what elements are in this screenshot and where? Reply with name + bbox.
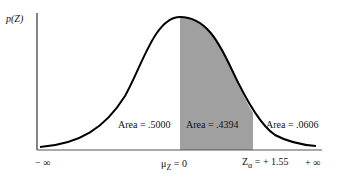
y-axis-label: p(Z): [6, 14, 23, 24]
neg-infinity-label: − ∞: [35, 158, 50, 168]
mean-label: μZ = 0: [161, 159, 187, 169]
z-value: = + 1.55: [252, 156, 288, 167]
area-mid-label: Area = .4394: [186, 120, 239, 130]
pos-infinity-label: + ∞: [305, 158, 320, 168]
z-alpha-label: Zα = + 1.55: [242, 157, 289, 167]
mu-value: = 0: [171, 158, 187, 169]
shaded-area: [180, 17, 253, 150]
normal-curve-plot: [0, 0, 337, 181]
z-subscript: α: [248, 161, 252, 170]
mu-subscript: Z: [166, 163, 171, 172]
area-left-label: Area = .5000: [118, 120, 171, 130]
area-right-label: Area = .0606: [266, 120, 319, 130]
